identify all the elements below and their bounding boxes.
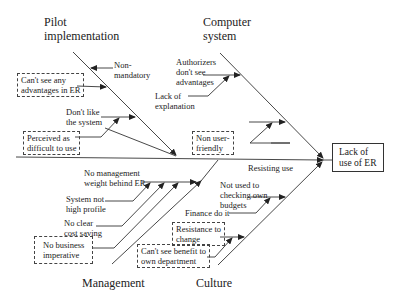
category-computer-system: Computer system (203, 15, 251, 43)
category-management: Management (82, 276, 145, 290)
spine-arrow (16, 157, 323, 160)
cause-not-used-to-budgets: Not used to checking own budgets (220, 180, 267, 210)
cause-line: Perceived as (27, 133, 76, 143)
cause-line: Authorizers (176, 57, 216, 67)
spine-label: Resisting use (248, 163, 293, 173)
cause-line: change (176, 234, 221, 244)
category-pilot-implementation: Pilot implementation (44, 15, 119, 43)
cause-line: weight behind ER (84, 178, 145, 188)
cause-line: don't see (176, 67, 216, 77)
effect-box: Lack of use of ER (332, 143, 384, 172)
effect-line: use of ER (339, 158, 383, 169)
cause-line: No clear (64, 218, 102, 228)
cause-line: System not (66, 194, 106, 204)
cause-line: Not used to (220, 180, 267, 190)
cause-line: Non user- (196, 133, 230, 143)
cause-line: imperative (43, 250, 84, 260)
cause-line: checking own (220, 190, 267, 200)
cause-resistance-to-change: Resistance to change (172, 222, 225, 246)
cause-line: No management (84, 168, 145, 178)
cause-line: Don't like (66, 107, 102, 117)
cause-line: difficult to use (27, 143, 76, 153)
cause-non-mandatory: Non- mandatory (114, 60, 150, 80)
cause-no-business-imperative: No business imperative (34, 236, 93, 264)
cause-perceived-difficult: Perceived as difficult to use (23, 131, 80, 155)
cause-line: No business (43, 240, 84, 250)
category-line: implementation (44, 29, 119, 43)
category-line: Pilot (44, 15, 119, 29)
cause-line: advantages in ER (21, 85, 80, 95)
cause-line: mandatory (114, 70, 150, 80)
cause-line: Lack of (155, 91, 195, 101)
cause-line: explanation (155, 101, 195, 111)
category-culture: Culture (196, 276, 232, 290)
effect-line: Lack of (339, 147, 383, 158)
cause-non-user-friendly: Non user- friendly (192, 131, 234, 155)
cause-line: Can't see benefit to (141, 246, 206, 256)
category-line: system (203, 29, 251, 43)
cause-cant-see-advantages: Can't see any advantages in ER (17, 73, 84, 97)
cause-lack-of-explanation: Lack of explanation (155, 91, 195, 111)
cause-line: own department (141, 256, 206, 266)
cause-no-clear-cost-saving: No clear cost saving (64, 218, 102, 238)
cause-dont-like-system: Don't like the system (66, 107, 102, 127)
cause-line: Can't see any (21, 75, 80, 85)
category-line: Computer (203, 15, 251, 29)
cause-line: advantages (176, 77, 216, 87)
bone-culture (218, 162, 322, 265)
cause-line: Non- (114, 60, 150, 70)
cause-line: the system (66, 117, 102, 127)
cause-authorizers: Authorizers don't see advantages (176, 57, 216, 87)
cause-system-not-high-profile: System not high profile (66, 194, 106, 214)
cause-no-management-weight: No management weight behind ER (84, 168, 145, 188)
cause-line: Resistance to (176, 224, 221, 234)
cause-line: high profile (66, 204, 106, 214)
bone-computer (220, 53, 323, 158)
cause-cant-see-benefit: Can't see benefit to own department (137, 244, 210, 268)
cause-line: friendly (196, 143, 230, 153)
cause-finance-do-it: Finance do it (185, 208, 229, 218)
